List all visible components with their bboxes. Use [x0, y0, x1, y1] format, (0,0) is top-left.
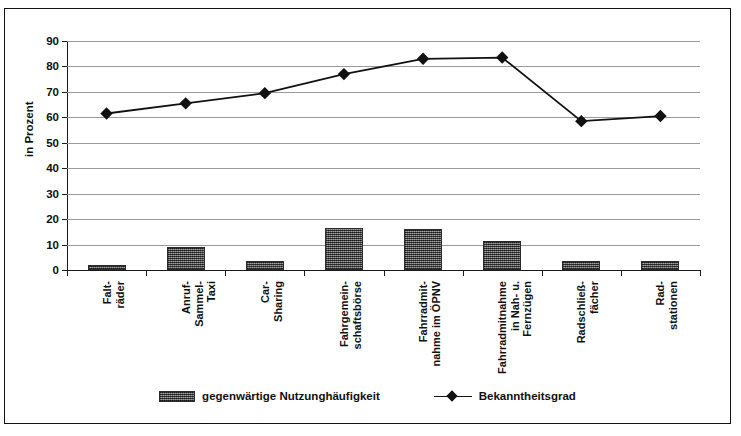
x-axis-label-line: stationen	[667, 281, 680, 386]
line-marker-diamond	[259, 87, 271, 99]
x-tick-mark	[700, 270, 701, 276]
x-axis-label-2: Car-Sharing	[259, 281, 284, 386]
x-axis-label-4: Fahrradmit-nahme im ÖPNV	[417, 281, 442, 386]
legend-label-line: Bekanntheitsgrad	[479, 390, 576, 402]
x-axis-label-7: Rad-stationen	[654, 281, 679, 386]
x-axis-label-line: Radschließ-	[575, 281, 588, 386]
y-tick-label-80: 80	[46, 60, 59, 72]
x-axis-label-line: Taxi	[205, 281, 218, 386]
line-series-bekanntheitsgrad	[67, 41, 700, 270]
x-axis-label-line: Sammel-	[192, 281, 205, 386]
x-axis-label-line: in Nah- u.	[509, 281, 522, 386]
x-axis-label-1: Anruf-Sammel-Taxi	[180, 281, 218, 386]
x-axis-label-5: Fahrradmitnahmein Nah- u.Fernzügen	[496, 281, 534, 386]
x-axis-label-line: Fahrgemein-	[338, 281, 351, 386]
legend-label-bar: gegenwärtige Nutzunghäufigkeit	[202, 390, 380, 402]
legend-line-diamond-icon	[434, 391, 472, 402]
x-axis-label-line: räder	[113, 281, 126, 386]
x-tick-mark	[304, 270, 305, 276]
legend-item-line: Bekanntheitsgrad	[434, 390, 576, 402]
x-tick-mark	[225, 270, 226, 276]
line-marker-diamond	[338, 68, 350, 80]
x-axis-label-line: fächer	[588, 281, 601, 386]
x-axis-label-line: Sharing	[271, 281, 284, 386]
x-axis-label-line: schaftsbörse	[350, 281, 363, 386]
x-axis-ticks	[67, 270, 700, 277]
chart-legend: gegenwärtige Nutzunghäufigkeit Bekannthe…	[5, 390, 730, 402]
x-tick-mark	[463, 270, 464, 276]
plot-area: 0102030405060708090	[67, 41, 700, 270]
legend-bar-swatch-icon	[159, 391, 195, 402]
x-axis-label-line: Fernzügen	[521, 281, 534, 386]
line-marker-diamond	[417, 53, 429, 65]
chart-figure: in Prozent 0102030405060708090 Falt-räde…	[4, 8, 731, 424]
x-axis-label-line: Rad-	[654, 281, 667, 386]
x-axis-label-line: Fahrradmitnahme	[496, 281, 509, 386]
line-marker-diamond	[654, 110, 666, 122]
x-axis-label-line: nahme im ÖPNV	[430, 281, 443, 386]
y-tick-label-70: 70	[46, 86, 59, 98]
y-axis-title: in Prozent	[23, 101, 35, 157]
x-tick-mark	[621, 270, 622, 276]
y-tick-label-0: 0	[53, 264, 59, 276]
x-axis-label-line: Falt-	[101, 281, 114, 386]
x-tick-mark	[67, 270, 68, 276]
x-axis-label-3: Fahrgemein-schaftsbörse	[338, 281, 363, 386]
line-marker-diamond	[100, 107, 112, 119]
line-marker-diamond	[179, 97, 191, 109]
legend-item-bar: gegenwärtige Nutzunghäufigkeit	[159, 390, 380, 402]
y-tick-label-90: 90	[46, 35, 59, 47]
y-tick-label-10: 10	[46, 239, 59, 251]
y-tick-label-40: 40	[46, 162, 59, 174]
x-tick-mark	[146, 270, 147, 276]
x-axis-tick-labels: Falt-räderAnruf-Sammel-TaxiCar-SharingFa…	[67, 281, 700, 386]
y-tick-label-30: 30	[46, 188, 59, 200]
x-axis-label-line: Anruf-	[180, 281, 193, 386]
y-tick-label-50: 50	[46, 137, 59, 149]
x-axis-label-line: Car-	[259, 281, 272, 386]
y-tick-label-60: 60	[46, 111, 59, 123]
x-tick-mark	[542, 270, 543, 276]
x-axis-label-0: Falt-räder	[101, 281, 126, 386]
line-path	[107, 58, 661, 122]
x-axis-label-line: Fahrradmit-	[417, 281, 430, 386]
x-tick-mark	[384, 270, 385, 276]
x-axis-label-6: Radschließ-fächer	[575, 281, 600, 386]
y-tick-label-20: 20	[46, 213, 59, 225]
